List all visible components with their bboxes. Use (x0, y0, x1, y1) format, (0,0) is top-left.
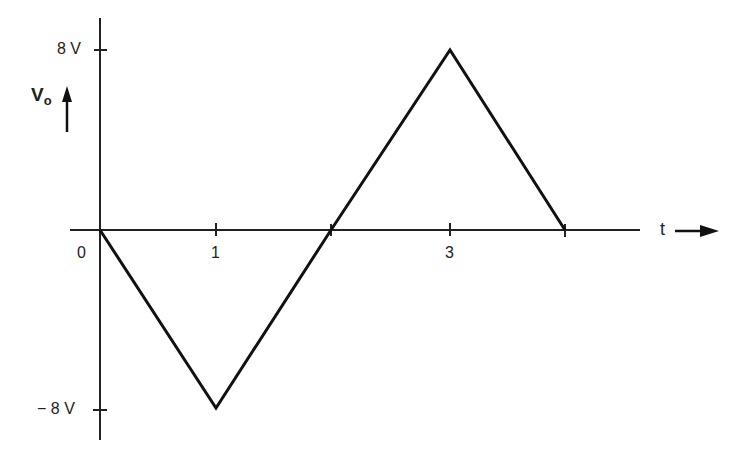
waveform-diagram (0, 0, 747, 470)
x-axis-label: t (660, 219, 665, 240)
x-tick-3-label: 3 (445, 244, 454, 262)
y-min-label: − 8 V (37, 400, 75, 418)
x-tick-1-label: 1 (211, 244, 220, 262)
t-arrow-head-icon (700, 225, 719, 237)
y-axis-label-sub: o (44, 93, 52, 108)
y-axis-label: Vo (31, 84, 52, 108)
y-axis-label-main: V (31, 84, 44, 105)
origin-label: 0 (77, 244, 86, 262)
vo-arrow-head-icon (62, 86, 72, 102)
y-max-label: 8 V (57, 40, 81, 58)
